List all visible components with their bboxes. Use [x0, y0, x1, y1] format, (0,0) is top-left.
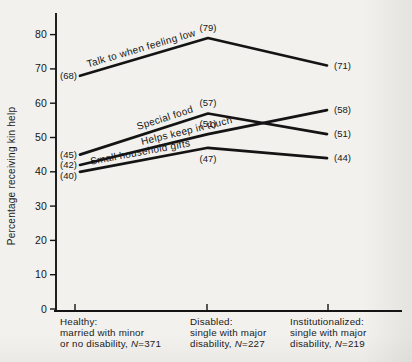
value-label-right-keep-in-touch: (58) [334, 104, 351, 115]
value-label-left-keep-in-touch: (42) [60, 159, 77, 170]
value-label-right-talk: (71) [334, 60, 351, 71]
value-label-left-talk: (68) [60, 70, 77, 81]
y-tick-label-70: 70 [35, 62, 47, 74]
value-label-mid-special-food: (57) [200, 97, 217, 108]
y-tick-label-30: 30 [35, 200, 47, 212]
series-label-gifts: Small household gifts [89, 137, 191, 166]
value-label-left-special-food: (45) [60, 149, 77, 160]
kin-help-line-chart-figure: Percentage receiving kin help 0102030405… [0, 0, 412, 362]
value-label-mid-gifts: (47) [200, 153, 217, 164]
y-tick-label-0: 0 [41, 303, 47, 315]
line-chart-plot: 01020304050607080(68)(45)(42)(40)(79)(71… [0, 0, 412, 362]
y-tick-label-20: 20 [35, 234, 47, 246]
value-label-mid-talk: (79) [200, 22, 217, 33]
value-label-right-gifts: (44) [334, 152, 351, 163]
y-tick-label-50: 50 [35, 131, 47, 143]
y-tick-label-80: 80 [35, 28, 47, 40]
value-label-right-special-food: (51) [334, 128, 351, 139]
y-tick-label-40: 40 [35, 165, 47, 177]
value-label-left-gifts: (40) [60, 170, 77, 181]
series-label-talk: Talk to when feeling low [85, 27, 197, 70]
y-tick-label-10: 10 [35, 268, 47, 280]
y-tick-label-60: 60 [35, 97, 47, 109]
